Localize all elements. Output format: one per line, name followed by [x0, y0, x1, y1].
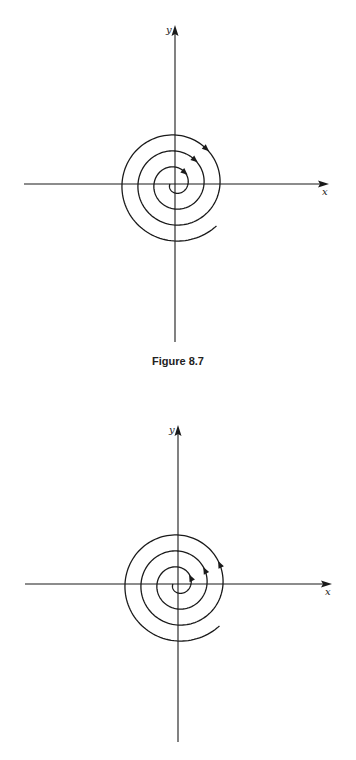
axes: [24, 25, 329, 342]
unstable-spiral-panel: y x: [0, 380, 356, 760]
x-axis-label: x: [322, 186, 328, 197]
phase-portrait-stable-spiral: y x: [0, 0, 356, 380]
x-axis-label: x: [325, 586, 331, 597]
y-axis-label: y: [168, 424, 175, 435]
y-axis-label: y: [165, 24, 172, 35]
figure-8-7-panel: y x Figure 8.7: [0, 0, 356, 380]
direction-arrows: [180, 144, 209, 175]
direction-arrow-icon: [189, 575, 195, 583]
figure-caption: Figure 8.7: [0, 355, 356, 367]
spiral-trajectory: [125, 535, 223, 641]
spiral-trajectory: [122, 135, 220, 241]
axes: [25, 425, 332, 742]
phase-portrait-unstable-spiral: y x: [0, 380, 356, 760]
